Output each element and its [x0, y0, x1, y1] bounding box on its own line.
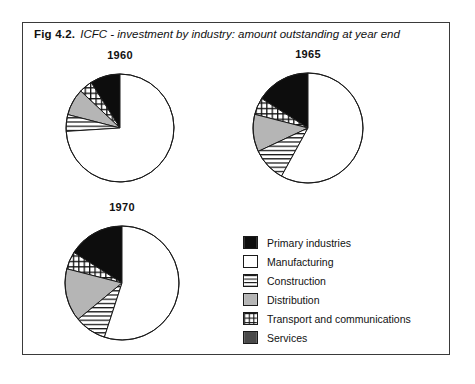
pie-graphic — [250, 70, 366, 186]
legend-item: Manufacturing — [243, 252, 411, 271]
pie-chart-title: 1965 — [250, 48, 366, 60]
legend-item: Transport and communications — [243, 309, 411, 328]
pie-chart-title: 1970 — [62, 201, 182, 213]
legend-swatch-solid-dark-grey-icon — [243, 331, 258, 344]
legend-item: Primary industries — [243, 233, 411, 252]
figure-page: Fig 4.2.ICFC - investment by industry: a… — [0, 0, 475, 384]
legend-swatch-solid-black-icon — [243, 236, 258, 249]
legend-swatch-grid-hatch-icon — [243, 312, 258, 325]
legend-item-label: Transport and communications — [267, 313, 411, 325]
legend-item: Services — [243, 328, 411, 347]
pie-chart-1970: 1970 — [62, 201, 182, 343]
pie-graphic — [62, 223, 182, 343]
legend-item-label: Construction — [267, 275, 326, 287]
pie-graphic — [63, 71, 177, 185]
figure-caption-text: ICFC - investment by industry: amount ou… — [75, 28, 400, 40]
figure-caption: Fig 4.2.ICFC - investment by industry: a… — [34, 28, 400, 40]
legend-swatch-horizontal-lines-icon — [243, 274, 258, 287]
legend-swatch-solid-white-icon — [243, 255, 258, 268]
legend-item: Distribution — [243, 290, 411, 309]
legend-item-label: Primary industries — [267, 237, 351, 249]
legend-item-label: Manufacturing — [267, 256, 334, 268]
legend-item-label: Services — [267, 332, 307, 344]
pie-chart-title: 1960 — [63, 49, 177, 61]
pie-chart-1965: 1965 — [250, 48, 366, 186]
legend-item: Construction — [243, 271, 411, 290]
figure-label: Fig 4.2. — [34, 28, 75, 40]
legend: Primary industries Manufacturing Constru… — [243, 233, 411, 347]
pie-chart-1960: 1960 — [63, 49, 177, 185]
legend-item-label: Distribution — [267, 294, 320, 306]
legend-swatch-solid-light-grey-icon — [243, 293, 258, 306]
